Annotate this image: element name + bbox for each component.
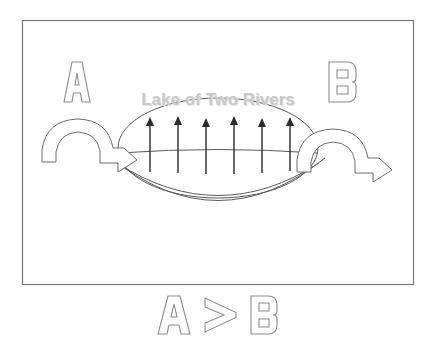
lake-basin-curve xyxy=(111,158,325,201)
evaporation-arrow xyxy=(230,116,238,174)
evaporation-arrow xyxy=(174,116,182,173)
diagram-canvas: .blockletter { fill: #ffffff; stroke: #8… xyxy=(0,0,437,357)
evaporation-arrow xyxy=(202,118,210,174)
left-inflow-arrow xyxy=(42,119,137,172)
lake-waterline xyxy=(119,150,317,154)
region-label-a xyxy=(64,62,90,102)
comparison-operator-gt xyxy=(205,298,236,332)
evaporation-arrow-group xyxy=(146,116,294,174)
lake-diagram-svg: .blockletter { fill: #ffffff; stroke: #8… xyxy=(0,0,437,357)
lake-name-text: Lake of Two Rivers xyxy=(141,90,295,109)
lake-basin-inner-curve xyxy=(117,163,319,196)
evaporation-arrow xyxy=(286,117,294,171)
evaporation-arrow xyxy=(146,117,154,172)
right-outflow-arrow xyxy=(297,129,392,182)
lake-name-label: Lake of Two Rivers Lake of Two Rivers xyxy=(141,90,296,110)
lake-surface-ellipse xyxy=(118,98,318,198)
comparison-letter-b xyxy=(251,296,277,334)
evaporation-arrow xyxy=(258,118,266,173)
region-label-b xyxy=(329,62,356,102)
comparison-letter-a xyxy=(158,296,190,334)
